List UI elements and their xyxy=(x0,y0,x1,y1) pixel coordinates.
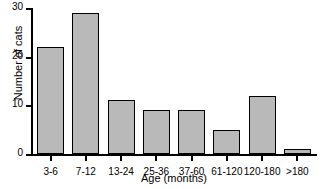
x-tick-label: 120-180 xyxy=(244,166,281,177)
bar xyxy=(108,100,135,154)
y-tick-label: 10 xyxy=(12,98,23,109)
x-tick xyxy=(191,156,193,161)
y-axis-title: Number of cats xyxy=(12,0,24,133)
bar-chart-figure: Number of cats Age (months) 0102030 3-67… xyxy=(0,0,322,189)
x-tick xyxy=(120,156,122,161)
x-tick xyxy=(50,156,52,161)
bar xyxy=(284,149,311,154)
bar xyxy=(213,130,240,154)
y-axis-line xyxy=(31,8,33,156)
plot-area: 0102030 3-67-1213-2425-3637-6061-120120-… xyxy=(33,8,315,154)
x-tick-label: 61-120 xyxy=(211,166,242,177)
y-tick: 30 xyxy=(26,8,31,10)
bar xyxy=(143,110,170,154)
x-tick xyxy=(226,156,228,161)
x-tick xyxy=(155,156,157,161)
x-tick-label: 3-6 xyxy=(43,166,57,177)
x-tick xyxy=(261,156,263,161)
y-tick-label: 0 xyxy=(17,147,23,158)
x-tick-label: 25-36 xyxy=(144,166,170,177)
y-tick: 10 xyxy=(26,105,31,107)
x-axis-line xyxy=(31,154,317,156)
y-tick: 0 xyxy=(26,154,31,156)
bar xyxy=(178,110,205,154)
bar xyxy=(37,47,64,154)
y-tick: 20 xyxy=(26,57,31,59)
x-tick-label: >180 xyxy=(286,166,309,177)
x-tick xyxy=(85,156,87,161)
x-tick xyxy=(296,156,298,161)
y-tick-label: 30 xyxy=(12,1,23,12)
bar xyxy=(249,96,276,154)
x-tick-label: 13-24 xyxy=(108,166,134,177)
y-tick-label: 20 xyxy=(12,50,23,61)
x-tick-label: 7-12 xyxy=(76,166,96,177)
bar xyxy=(72,13,99,154)
x-tick-label: 37-60 xyxy=(179,166,205,177)
